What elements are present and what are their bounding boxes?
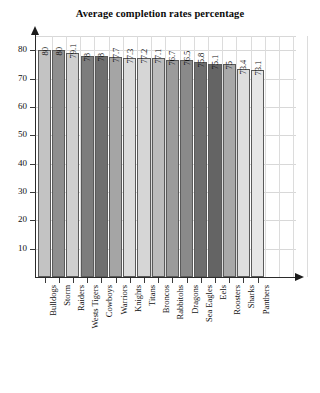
bar: [166, 60, 179, 277]
x-axis-tick: [172, 278, 173, 283]
bar-value-label: 75: [225, 61, 234, 70]
bar: [223, 64, 236, 277]
category-label: Dragons: [191, 285, 200, 314]
bar: [123, 58, 136, 277]
bar-value-label: 76.7: [168, 50, 177, 65]
x-axis-tick: [144, 278, 145, 283]
y-axis-label: 80: [0, 45, 27, 54]
x-axis-tick: [258, 278, 259, 283]
x-axis-tick: [101, 278, 102, 283]
bar-value-label: 77.2: [139, 49, 148, 64]
bar-value-label: 77.7: [111, 47, 120, 62]
bar: [38, 50, 51, 277]
bar: [152, 58, 165, 277]
bar-value-label: 77.1: [154, 49, 163, 64]
bar: [81, 56, 94, 277]
category-label: Broncos: [162, 285, 171, 313]
bar: [180, 60, 193, 277]
gridline-vertical: [307, 36, 308, 277]
bar-value-label: 76.5: [182, 51, 191, 66]
x-axis-arrow-icon: [295, 273, 304, 281]
bar-value-label: 77.3: [125, 48, 134, 63]
x-axis-tick: [59, 278, 60, 283]
bar-value-label: 78: [97, 53, 106, 62]
y-axis-arrow-icon: [31, 26, 39, 35]
bar-value-label: 73.4: [239, 60, 248, 75]
bar: [109, 57, 122, 277]
category-label: Raiders: [77, 285, 86, 311]
category-label: Knights: [134, 285, 143, 312]
y-axis-label: 30: [0, 187, 27, 196]
category-label: Roosters: [233, 285, 242, 315]
category-label: Bulldogs: [49, 285, 58, 316]
category-label: Storm: [63, 285, 72, 306]
x-axis-tick: [45, 278, 46, 283]
x-axis-tick: [243, 278, 244, 283]
y-axis-label: 50: [0, 130, 27, 139]
bar: [237, 69, 250, 277]
category-label: Panthers: [262, 285, 271, 314]
category-label: Rabbitohs: [176, 285, 185, 319]
x-axis-tick: [215, 278, 216, 283]
category-label: Wests Tigers: [91, 285, 100, 328]
x-axis-tick: [116, 278, 117, 283]
x-axis-tick: [87, 278, 88, 283]
x-axis-tick: [130, 278, 131, 283]
category-label: Cowboys: [105, 285, 114, 317]
bar: [52, 50, 65, 277]
category-label: Eels: [219, 285, 228, 300]
bar: [251, 70, 264, 277]
y-axis-label: 60: [0, 102, 27, 111]
y-axis-label: 20: [0, 215, 27, 224]
x-axis-tick: [201, 278, 202, 283]
bar: [66, 53, 79, 277]
category-label: Sea Eagles: [205, 285, 214, 322]
chart-title: Average completion rates percentage: [0, 8, 320, 19]
bar-value-label: 79.1: [68, 43, 77, 58]
bar-value-label: 80: [40, 47, 49, 56]
category-label: Titans: [148, 285, 157, 306]
bar-value-label: 73.1: [253, 60, 262, 75]
bar: [208, 64, 221, 277]
bar-value-label: 75.1: [211, 55, 220, 70]
bar-value-label: 80: [54, 47, 63, 56]
bar: [95, 56, 108, 277]
bar: [194, 62, 207, 277]
x-axis-tick: [158, 278, 159, 283]
category-label: Sharks: [247, 285, 256, 308]
bar-value-label: 78: [83, 53, 92, 62]
x-axis-tick: [229, 278, 230, 283]
bar-chart: Average completion rates percentage 1020…: [0, 0, 320, 393]
x-axis-tick: [73, 278, 74, 283]
y-axis-label: 10: [0, 244, 27, 253]
bar-value-label: 75.8: [196, 53, 205, 68]
y-axis-label: 40: [0, 159, 27, 168]
category-label: Warriors: [120, 285, 129, 315]
y-axis-label: 70: [0, 74, 27, 83]
bar: [137, 58, 150, 277]
x-axis-tick: [187, 278, 188, 283]
